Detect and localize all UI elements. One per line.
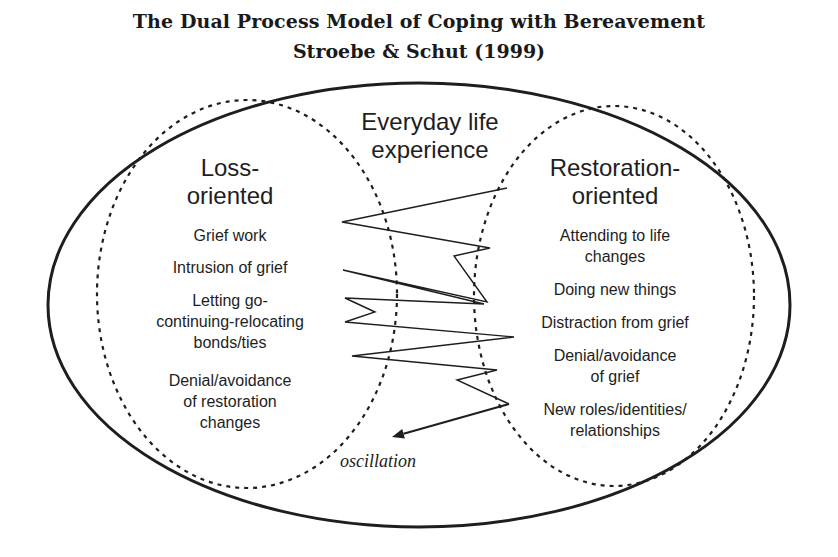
restoration-item-text: changes [500,246,730,267]
oscillation-label: oscillation [340,451,416,472]
restoration-item-text: Denial/avoidance [500,345,730,366]
loss-item-text: continuing-relocating [110,311,350,332]
restoration-item-new-things: Doing new things [500,279,730,300]
loss-item-denial: Denial/avoidance of restoration changes [110,370,350,433]
arrowhead-icon [392,429,405,439]
oscillation-arrow [404,404,509,434]
loss-item-text: Denial/avoidance [110,370,350,391]
restoration-item-text: of grief [500,366,730,387]
restoration-item-text: Distraction from grief [500,312,730,333]
everyday-life-line1: Everyday life [330,108,530,136]
restoration-heading-line2: oriented [510,182,720,210]
loss-item-grief-work: Grief work [110,225,350,246]
restoration-item-new-roles: New roles/identities/ relationships [500,399,730,441]
restoration-item-text: Attending to life [500,225,730,246]
restoration-item-text: New roles/identities/ [500,399,730,420]
restoration-item-text: Doing new things [500,279,730,300]
restoration-item-distraction: Distraction from grief [500,312,730,333]
loss-item-text: Letting go- [110,290,350,311]
loss-oriented-heading: Loss- oriented [130,154,330,210]
loss-item-text: of restoration [110,391,350,412]
loss-item-text: Grief work [110,225,350,246]
loss-item-text: changes [110,412,350,433]
restoration-item-attending: Attending to life changes [500,225,730,267]
loss-heading-line2: oriented [130,182,330,210]
restoration-item-text: relationships [500,420,730,441]
loss-item-intrusion: Intrusion of grief [110,257,350,278]
loss-item-letting-go: Letting go- continuing-relocating bonds/… [110,290,350,353]
loss-item-text: Intrusion of grief [110,257,350,278]
restoration-heading-line1: Restoration- [510,154,720,182]
everyday-life-label: Everyday life experience [330,108,530,164]
loss-item-text: bonds/ties [110,332,350,353]
loss-heading-line1: Loss- [130,154,330,182]
everyday-life-line2: experience [330,136,530,164]
oscillation-zigzag-line [342,188,514,404]
restoration-item-denial: Denial/avoidance of grief [500,345,730,387]
restoration-oriented-heading: Restoration- oriented [510,154,720,210]
